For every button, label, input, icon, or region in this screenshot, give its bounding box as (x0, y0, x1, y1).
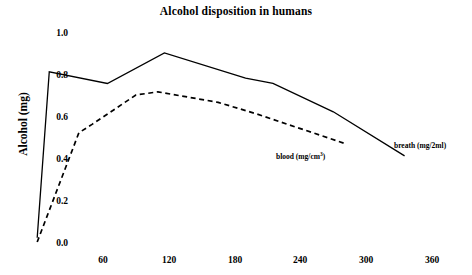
series-label-blood: blood (mg/cm3) (276, 152, 325, 161)
series-label-breath: breath (mg/2ml) (394, 141, 446, 150)
plot-area (0, 0, 472, 275)
series-label-blood-prefix: blood (mg/cm (276, 152, 320, 161)
chart-figure: Alcohol disposition in humans Alcohol (m… (0, 0, 472, 275)
series-line-blood (37, 92, 344, 242)
series-label-blood-suffix: ) (323, 152, 326, 161)
series-line-breath (37, 53, 404, 238)
